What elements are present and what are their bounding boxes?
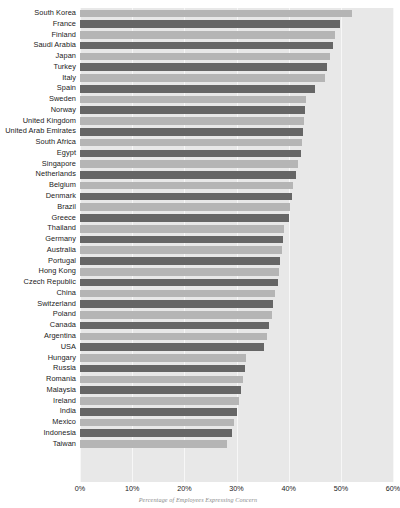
bar bbox=[80, 128, 303, 136]
bar-row: Italy bbox=[0, 73, 396, 84]
category-label: Netherlands bbox=[0, 169, 76, 180]
bar bbox=[80, 42, 333, 50]
bar-row: Brazil bbox=[0, 202, 396, 213]
bar bbox=[80, 236, 283, 244]
bar-row: Spain bbox=[0, 83, 396, 94]
bar bbox=[80, 117, 304, 125]
category-label: Italy bbox=[0, 73, 76, 84]
bar-row: Canada bbox=[0, 320, 396, 331]
bar bbox=[80, 257, 280, 265]
bar bbox=[80, 290, 275, 298]
bar-rows: South KoreaFranceFinlandSaudi ArabiaJapa… bbox=[0, 8, 396, 482]
bar-row: South Africa bbox=[0, 137, 396, 148]
bar-row: Hong Kong bbox=[0, 266, 396, 277]
bar-row: Egypt bbox=[0, 148, 396, 159]
category-label: Russia bbox=[0, 363, 76, 374]
bar bbox=[80, 343, 264, 351]
bar bbox=[80, 376, 243, 384]
bar-row: Norway bbox=[0, 105, 396, 116]
x-tick-label: 60% bbox=[386, 484, 400, 493]
category-label: Singapore bbox=[0, 159, 76, 170]
bar-row: Argentina bbox=[0, 331, 396, 342]
bar bbox=[80, 279, 278, 287]
bar-row: Finland bbox=[0, 30, 396, 41]
bar bbox=[80, 311, 272, 319]
bar-row: Russia bbox=[0, 363, 396, 374]
bar bbox=[80, 20, 340, 28]
category-label: Ireland bbox=[0, 396, 76, 407]
category-label: Turkey bbox=[0, 62, 76, 73]
bar bbox=[80, 193, 292, 201]
category-label: Finland bbox=[0, 30, 76, 41]
bar bbox=[80, 139, 302, 147]
bar-row: Denmark bbox=[0, 191, 396, 202]
bar bbox=[80, 429, 232, 437]
bar bbox=[80, 203, 290, 211]
category-label: Argentina bbox=[0, 331, 76, 342]
bar-row: South Korea bbox=[0, 8, 396, 19]
bar-row: Switzerland bbox=[0, 299, 396, 310]
bar bbox=[80, 333, 267, 341]
category-label: USA bbox=[0, 342, 76, 353]
category-label: Malaysia bbox=[0, 385, 76, 396]
bar bbox=[80, 268, 279, 276]
category-label: Indonesia bbox=[0, 428, 76, 439]
bar-row: Mexico bbox=[0, 417, 396, 428]
bar bbox=[80, 300, 273, 308]
category-label: Norway bbox=[0, 105, 76, 116]
x-axis-caption: Percentage of Employees Expressing Conce… bbox=[0, 496, 396, 503]
category-label: Czech Republic bbox=[0, 277, 76, 288]
bar-row: United Kingdom bbox=[0, 116, 396, 127]
category-label: Hong Kong bbox=[0, 266, 76, 277]
bar-row: Belgium bbox=[0, 180, 396, 191]
category-label: France bbox=[0, 19, 76, 30]
bar bbox=[80, 322, 269, 330]
category-label: United Kingdom bbox=[0, 116, 76, 127]
bar bbox=[80, 365, 245, 373]
x-tick-label: 40% bbox=[281, 484, 295, 493]
category-label: South Korea bbox=[0, 8, 76, 19]
bar-row: Saudi Arabia bbox=[0, 40, 396, 51]
bar-row: Romania bbox=[0, 374, 396, 385]
category-label: Saudi Arabia bbox=[0, 40, 76, 51]
bar-row: Netherlands bbox=[0, 169, 396, 180]
x-tick-label: 30% bbox=[229, 484, 243, 493]
bar-row: Hungary bbox=[0, 353, 396, 364]
bar-row: Singapore bbox=[0, 159, 396, 170]
bar-row: Australia bbox=[0, 245, 396, 256]
bar bbox=[80, 246, 282, 254]
category-label: Poland bbox=[0, 309, 76, 320]
bar bbox=[80, 354, 246, 362]
category-label: India bbox=[0, 406, 76, 417]
bar bbox=[80, 397, 239, 405]
category-label: Mexico bbox=[0, 417, 76, 428]
bar bbox=[80, 31, 335, 39]
category-label: Denmark bbox=[0, 191, 76, 202]
bar-row: Turkey bbox=[0, 62, 396, 73]
bar bbox=[80, 74, 325, 82]
category-label: Romania bbox=[0, 374, 76, 385]
category-label: Germany bbox=[0, 234, 76, 245]
bar-row: Malaysia bbox=[0, 385, 396, 396]
category-label: Japan bbox=[0, 51, 76, 62]
category-label: Taiwan bbox=[0, 439, 76, 450]
bar-row: China bbox=[0, 288, 396, 299]
bar bbox=[80, 160, 298, 168]
bar bbox=[80, 214, 289, 222]
bar-row: France bbox=[0, 19, 396, 30]
bar bbox=[80, 386, 241, 394]
bar-row: Germany bbox=[0, 234, 396, 245]
category-label: Sweden bbox=[0, 94, 76, 105]
category-label: Switzerland bbox=[0, 299, 76, 310]
category-label: Australia bbox=[0, 245, 76, 256]
category-label: Greece bbox=[0, 213, 76, 224]
bar-row: Taiwan bbox=[0, 439, 396, 450]
category-label: Belgium bbox=[0, 180, 76, 191]
category-label: Brazil bbox=[0, 202, 76, 213]
bar-row: Ireland bbox=[0, 396, 396, 407]
category-label: South Africa bbox=[0, 137, 76, 148]
bar bbox=[80, 419, 234, 427]
bar bbox=[80, 150, 301, 158]
bar-row: USA bbox=[0, 342, 396, 353]
bar bbox=[80, 53, 330, 61]
